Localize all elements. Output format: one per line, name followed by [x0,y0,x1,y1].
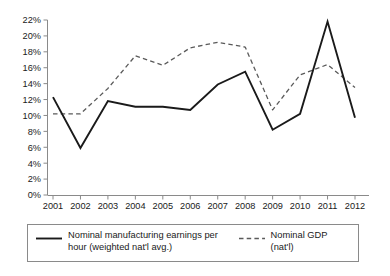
x-tick-label: 2006 [180,201,200,211]
x-tick-label: 2004 [125,201,145,211]
line-chart-svg: 0%2%4%6%8%10%12%14%16%18%20%22% 20012002… [0,0,390,215]
legend-dashed-line-icon [239,233,265,244]
x-axis-ticks [53,196,355,200]
series-line-nominal-gdp [53,42,355,114]
plot-area: 0%2%4%6%8%10%12%14%16%18%20%22% 20012002… [0,0,390,215]
y-tick-label: 10% [23,111,41,121]
x-tick-label: 2003 [98,201,118,211]
y-tick-label: 8% [28,127,41,137]
chart-legend: Nominal manufacturing earnings per hour … [27,224,359,262]
legend-entry-nominal-gdp: Nominal GDP (nat'l) [239,230,352,253]
x-tick-label: 2002 [70,201,90,211]
legend-label-nominal-gdp: Nominal GDP (nat'l) [271,230,352,253]
y-tick-label: 6% [28,143,41,153]
x-tick-label: 2009 [262,201,282,211]
y-tick-label: 18% [23,47,41,57]
legend-entry-manufacturing-earnings: Nominal manufacturing earnings per hour … [36,230,239,253]
y-tick-label: 2% [28,174,41,184]
x-tick-label: 2012 [345,201,365,211]
y-axis-tick-labels: 0%2%4%6%8%10%12%14%16%18%20%22% [23,15,41,200]
legend-label-manufacturing-earnings: Nominal manufacturing earnings per hour … [68,230,218,253]
y-tick-label: 22% [23,15,41,25]
x-tick-label: 2011 [318,201,338,211]
y-tick-label: 20% [23,31,41,41]
x-tick-label: 2001 [43,201,63,211]
y-tick-label: 14% [23,79,41,89]
y-axis-ticks [44,20,48,195]
series-line-manufacturing-earnings [53,22,355,148]
y-tick-label: 12% [23,95,41,105]
x-tick-label: 2008 [235,201,255,211]
x-tick-label: 2005 [153,201,173,211]
x-tick-label: 2010 [290,201,310,211]
x-tick-label: 2007 [208,201,228,211]
chart-figure: 0%2%4%6%8%10%12%14%16%18%20%22% 20012002… [0,0,390,276]
y-tick-label: 0% [28,190,41,200]
y-tick-label: 16% [23,63,41,73]
x-axis-tick-labels: 2001200220032004200520062007200820092010… [43,201,365,211]
legend-solid-line-icon [36,233,62,244]
y-tick-label: 4% [28,159,41,169]
